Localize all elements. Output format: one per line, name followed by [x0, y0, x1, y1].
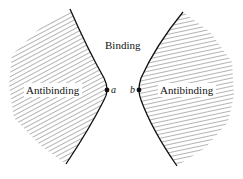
right-antibinding-label: Antibinding	[160, 84, 214, 96]
point-b-label: b	[130, 84, 135, 95]
point-b-marker	[137, 88, 142, 93]
point-a-label: a	[111, 84, 116, 95]
point-a-marker	[105, 88, 110, 93]
left-antibinding-label: Antibinding	[26, 84, 80, 96]
binding-antibinding-diagram: Binding Antibinding Antibinding a b	[0, 0, 243, 179]
binding-label: Binding	[105, 39, 141, 51]
